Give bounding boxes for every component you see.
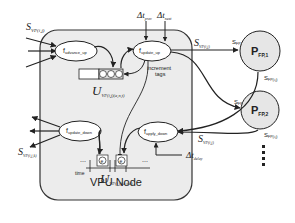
s-in-top-label: SVP(i,j) [26,21,45,34]
dt-next-label: Δtnext [156,10,172,21]
dt-delay-label: Δtdelay [185,150,203,161]
s-out-up-label: SVP(i,j) [194,37,210,50]
svg-text:e: e [101,158,104,164]
processor-fp2 [241,91,279,129]
ellipsis-left: ... [80,156,86,163]
s-in-right-label: SVP(i,j) [198,133,214,146]
s-out-left-label: SVP(i,j,k) [18,146,37,159]
processor-fp1 [240,31,280,71]
vpu-diagram: VPU Node SVP(i,j) fadvance_up fupdate_up… [0,0,295,223]
dt-prev-label: Δtprev [136,10,152,21]
buffer-tag [116,71,123,78]
s-fp1-out-label: SFP(i,j) [264,75,277,82]
time-label: time [75,170,85,176]
buffer-tag [108,71,115,78]
more-processors-dots [262,145,265,148]
buffer-up-empty [79,69,99,79]
s-fp2-out-label: SFP(i,j) [264,132,277,139]
ellipsis-right: ... [142,156,148,163]
buffer-tag [100,71,107,78]
svg-text:e: e [120,158,123,164]
